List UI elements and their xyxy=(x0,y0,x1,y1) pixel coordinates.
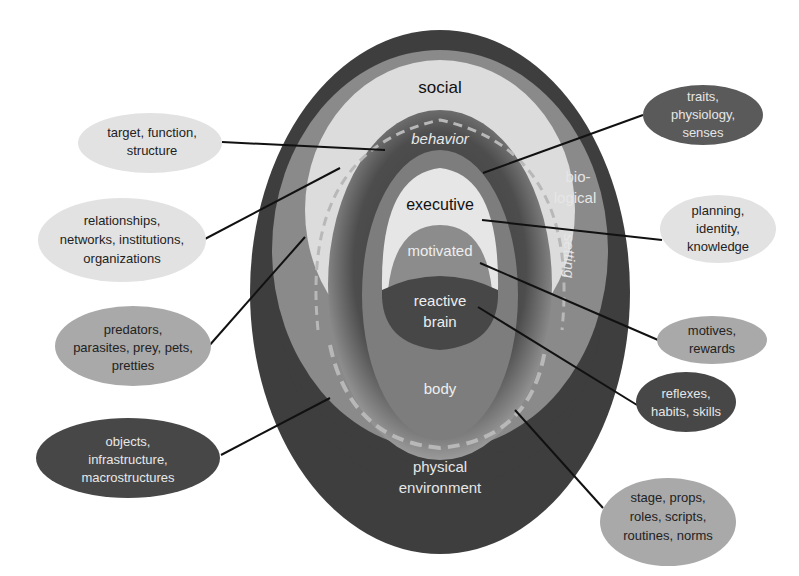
label-setting: setting xyxy=(561,234,578,279)
svg-text:objects,: objects, xyxy=(106,434,151,449)
svg-text:planning,: planning, xyxy=(692,203,745,218)
svg-text:reflexes,: reflexes, xyxy=(661,386,710,401)
svg-text:identity,: identity, xyxy=(696,221,740,236)
svg-text:relationships,: relationships, xyxy=(84,213,161,228)
svg-text:habits, skills: habits, skills xyxy=(651,404,722,419)
svg-text:pretties: pretties xyxy=(112,358,155,373)
svg-text:organizations: organizations xyxy=(83,251,161,266)
svg-text:roles, scripts,: roles, scripts, xyxy=(630,509,707,524)
callout-stage: stage, props, roles, scripts, routines, … xyxy=(600,478,736,566)
svg-text:routines, norms: routines, norms xyxy=(623,528,713,543)
callout-objects: objects, infrastructure, macrostructures xyxy=(36,418,220,498)
callout-traits: traits, physiology, senses xyxy=(643,85,763,145)
callout-reflexes: reflexes, habits, skills xyxy=(636,372,736,432)
svg-text:target, function,: target, function, xyxy=(107,125,197,140)
callout-planning: planning, identity, knowledge xyxy=(660,195,776,263)
svg-text:senses: senses xyxy=(682,125,724,140)
nested-domains-diagram: social behavior bio- logical setting exe… xyxy=(0,0,799,576)
label-environment: environment xyxy=(399,479,482,496)
svg-text:physiology,: physiology, xyxy=(671,107,735,122)
callout-relationships: relationships, networks, institutions, o… xyxy=(38,198,206,282)
svg-text:stage, props,: stage, props, xyxy=(630,490,705,505)
label-logical: logical xyxy=(554,189,597,206)
label-bio: bio- xyxy=(565,168,590,185)
callout-motives: motives, rewards xyxy=(657,316,767,364)
callout-predators: predators, parasites, prey, pets, pretti… xyxy=(55,306,211,386)
svg-text:structure: structure xyxy=(127,143,178,158)
svg-text:rewards: rewards xyxy=(689,341,736,356)
svg-text:macrostructures: macrostructures xyxy=(81,470,175,485)
label-brain: brain xyxy=(423,313,456,330)
callout-target-function-structure: target, function, structure xyxy=(78,113,222,173)
svg-text:predators,: predators, xyxy=(104,322,163,337)
label-executive: executive xyxy=(406,196,474,213)
svg-text:traits,: traits, xyxy=(687,89,719,104)
svg-text:networks, institutions,: networks, institutions, xyxy=(60,232,184,247)
svg-text:parasites, prey, pets,: parasites, prey, pets, xyxy=(73,340,193,355)
label-physical: physical xyxy=(413,458,467,475)
svg-text:motives,: motives, xyxy=(688,323,736,338)
svg-text:infrastructure,: infrastructure, xyxy=(88,452,167,467)
label-motivated: motivated xyxy=(407,242,472,259)
label-reactive: reactive xyxy=(414,292,467,309)
label-social: social xyxy=(418,78,461,97)
label-body: body xyxy=(424,380,457,397)
label-behavior: behavior xyxy=(411,130,470,147)
svg-text:knowledge: knowledge xyxy=(687,239,749,254)
